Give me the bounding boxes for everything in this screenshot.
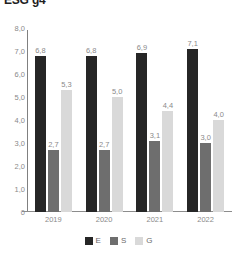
bar-g[interactable]: 4,0 [213,28,224,212]
bar-s[interactable]: 2,7 [48,28,59,212]
y-axis-tick: 7,0 [3,47,25,56]
bar-e[interactable]: 6,8 [35,28,46,212]
bar-value-label: 4,4 [163,101,173,110]
bar-value-label: 3,0 [200,133,210,142]
bar-rect[interactable] [35,56,46,212]
x-axis-tick: 2022 [180,215,231,224]
bar-s[interactable]: 2,7 [99,28,110,212]
bar-group: 6,93,14,4 [130,28,181,212]
y-axis-tick: 0 [3,208,25,217]
bar-g[interactable]: 4,4 [162,28,173,212]
bar-rect[interactable] [99,150,110,212]
bar-value-label: 5,0 [112,87,122,96]
bar-value-label: 6,9 [137,43,147,52]
bar-s[interactable]: 3,1 [149,28,160,212]
x-axis-labels: 2019202020212022 [28,215,231,224]
y-axis-tick: 5,0 [3,93,25,102]
bar-e[interactable]: 6,8 [86,28,97,212]
bar-group: 7,13,04,0 [180,28,231,212]
bar-rect[interactable] [187,49,198,212]
bar-set: 6,82,75,3 [28,28,79,212]
bar-rect[interactable] [200,143,211,212]
bar-value-label: 6,8 [35,46,45,55]
legend-swatch-icon [110,237,118,245]
y-axis-tick: 8,0 [3,24,25,33]
bar-value-label: 2,7 [48,140,58,149]
bar-value-label: 7,1 [187,39,197,48]
legend-item-e[interactable]: E [85,236,101,245]
bar-set: 6,93,14,4 [130,28,181,212]
bar-group: 6,82,75,3 [28,28,79,212]
y-axis-tick: 3,0 [3,139,25,148]
bar-s[interactable]: 3,0 [200,28,211,212]
x-axis-tick: 2021 [130,215,181,224]
legend-swatch-icon [85,237,93,245]
legend-label: S [121,236,126,245]
bar-value-label: 2,7 [99,140,109,149]
bar-groups: 6,82,75,36,82,75,06,93,14,47,13,04,0 [28,28,231,212]
legend-item-s[interactable]: S [110,236,126,245]
bar-rect[interactable] [136,53,147,212]
bar-rect[interactable] [162,111,173,212]
legend-label: G [146,236,152,245]
x-axis-tick: 2020 [79,215,130,224]
bar-g[interactable]: 5,0 [112,28,123,212]
bar-rect[interactable] [48,150,59,212]
bar-e[interactable]: 7,1 [187,28,198,212]
bar-value-label: 6,8 [86,46,96,55]
bar-g[interactable]: 5,3 [61,28,72,212]
chart-legend: ESG [0,236,237,245]
y-axis: 8,07,06,05,04,03,02,01,00 [0,28,25,212]
bar-rect[interactable] [112,97,123,212]
bar-value-label: 4,0 [213,110,223,119]
bar-value-label: 3,1 [150,131,160,140]
bar-rect[interactable] [61,90,72,212]
y-axis-tick: 2,0 [3,162,25,171]
y-axis-tick: 1,0 [3,185,25,194]
bar-rect[interactable] [86,56,97,212]
esg-bar-chart: ESG g4 8,07,06,05,04,03,02,01,00 6,82,75… [0,0,237,253]
bar-rect[interactable] [213,120,224,212]
legend-swatch-icon [135,237,143,245]
x-axis-tick: 2019 [28,215,79,224]
bar-set: 7,13,04,0 [180,28,231,212]
y-axis-tick: 4,0 [3,116,25,125]
bar-rect[interactable] [149,141,160,212]
bar-value-label: 5,3 [61,80,71,89]
legend-item-g[interactable]: G [135,236,152,245]
bar-e[interactable]: 6,9 [136,28,147,212]
bar-group: 6,82,75,0 [79,28,130,212]
bar-set: 6,82,75,0 [79,28,130,212]
y-axis-tick: 6,0 [3,70,25,79]
chart-title: ESG g4 [4,0,45,7]
legend-label: E [96,236,101,245]
